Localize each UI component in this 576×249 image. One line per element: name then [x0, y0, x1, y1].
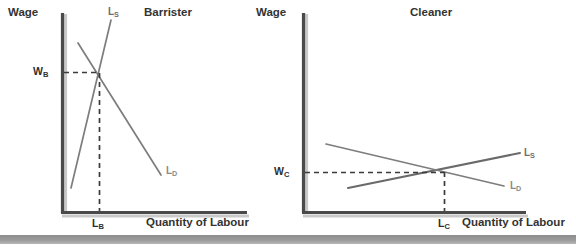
panel-barrister: Wage Barrister LS LD WB LB Quantity of L…	[0, 0, 288, 232]
barrister-equilibrium-wage-label: WB	[33, 66, 48, 77]
barrister-equilibrium-quantity-label: LB	[92, 218, 104, 229]
panel-cleaner: Wage Cleaner LS LD WC LC Quantity of Lab…	[288, 0, 576, 232]
cleaner-equilibrium-quantity-sub: C	[444, 222, 449, 231]
bottom-white-strip	[0, 244, 576, 249]
barrister-x-axis-label: Quantity of Labour	[146, 217, 249, 229]
barrister-chart-svg	[0, 0, 288, 232]
cleaner-demand-label-sub: D	[516, 184, 521, 193]
barrister-supply-label-sub: S	[114, 10, 119, 19]
barrister-supply-curve	[71, 20, 111, 188]
cleaner-demand-curve	[326, 144, 504, 186]
barrister-supply-label: LS	[108, 7, 119, 17]
figure-canvas: Wage Barrister LS LD WB LB Quantity of L…	[0, 0, 576, 249]
cleaner-equilibrium-wage-label: WC	[274, 166, 289, 177]
barrister-y-axis-label: Wage	[8, 7, 38, 19]
barrister-equilibrium-wage-sub: B	[43, 70, 48, 79]
cleaner-panel-title: Cleaner	[410, 7, 452, 19]
cleaner-equilibrium-wage-sub: C	[284, 170, 289, 179]
cleaner-demand-label: LD	[510, 181, 521, 191]
cleaner-chart-svg	[288, 0, 576, 232]
cleaner-equilibrium-quantity-label: LC	[438, 218, 450, 229]
bottom-divider-bar	[0, 235, 576, 244]
barrister-demand-label: LD	[166, 166, 177, 176]
cleaner-y-axis-label: Wage	[256, 7, 286, 19]
cleaner-supply-label: LS	[524, 148, 535, 158]
barrister-equilibrium-quantity-sub: B	[98, 222, 103, 231]
cleaner-equilibrium-wage-text: W	[274, 165, 284, 177]
barrister-panel-title: Barrister	[144, 7, 192, 19]
barrister-equilibrium-wage-text: W	[33, 65, 43, 77]
cleaner-supply-label-sub: S	[530, 151, 535, 160]
cleaner-supply-curve	[348, 153, 520, 188]
cleaner-x-axis-label: Quantity of Labour	[462, 217, 565, 229]
barrister-demand-label-sub: D	[172, 169, 177, 178]
